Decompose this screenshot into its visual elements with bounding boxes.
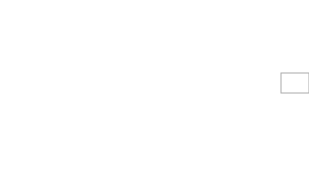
side-box[interactable] [281, 73, 309, 93]
backgammon-board [0, 0, 309, 176]
